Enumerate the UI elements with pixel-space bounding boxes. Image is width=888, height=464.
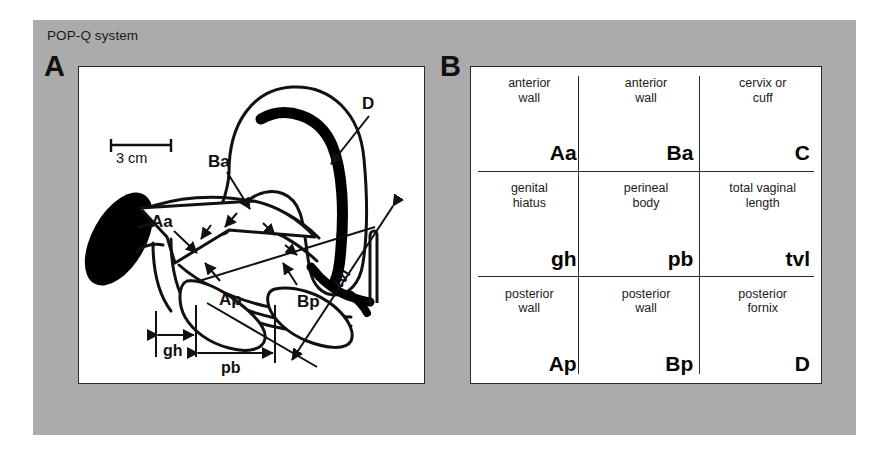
- grid-cell-ba[interactable]: anterior wall Ba: [588, 67, 705, 172]
- cell-description: anterior wall: [482, 76, 577, 106]
- leader-bp: [283, 263, 297, 285]
- figure-root: POP-Q system A B: [0, 0, 888, 464]
- cell-description: cervix or cuff: [715, 76, 810, 106]
- pelvic-anatomy-svg: 3 cm D Ba Aa: [79, 67, 423, 382]
- dimension-pb-label: pb: [221, 359, 241, 376]
- cell-code: pb: [599, 248, 694, 271]
- cell-description: perineal body: [599, 181, 694, 211]
- grid-cell-pb[interactable]: perineal body pb: [588, 172, 705, 277]
- cell-code: C: [715, 142, 810, 165]
- cell-description: anterior wall: [599, 76, 694, 106]
- cell-code: tvl: [715, 248, 810, 271]
- label-ap: Ap: [219, 290, 242, 309]
- grid-vrule-1: [578, 76, 579, 374]
- grid-vrule-2: [699, 76, 700, 374]
- panel-a-letter: A: [44, 52, 65, 81]
- cell-code: D: [715, 353, 810, 376]
- grid-cell-aa[interactable]: anterior wall Aa: [471, 67, 588, 172]
- grid-hrule-1: [478, 171, 814, 172]
- label-bp: Bp: [297, 292, 320, 311]
- cell-description: genital hiatus: [482, 181, 577, 211]
- label-aa: Aa: [151, 212, 173, 231]
- label-ba: Ba: [208, 152, 230, 171]
- cell-code: Ba: [599, 142, 694, 165]
- grid-row: genital hiatus gh perineal body pb total…: [471, 172, 821, 277]
- grid-cell-gh[interactable]: genital hiatus gh: [471, 172, 588, 277]
- figure-title: POP-Q system: [47, 28, 138, 43]
- grid-cell-bp[interactable]: posterior wall Bp: [588, 278, 705, 383]
- label-d: D: [362, 94, 374, 113]
- cell-description: posterior fornix: [715, 287, 810, 317]
- grid-row: anterior wall Aa anterior wall Ba cervix…: [471, 67, 821, 172]
- cell-description: posterior wall: [482, 287, 577, 317]
- cell-description: total vaginal length: [715, 181, 810, 211]
- scale-bar-label: 3 cm: [116, 150, 147, 166]
- panel-b-grid: anterior wall Aa anterior wall Ba cervix…: [470, 66, 822, 384]
- cell-description: posterior wall: [599, 287, 694, 317]
- grid-cell-c[interactable]: cervix or cuff C: [704, 67, 821, 172]
- panel-a-diagram: 3 cm D Ba Aa: [78, 66, 425, 384]
- cell-code: Ap: [482, 353, 577, 376]
- cell-code: Aa: [482, 142, 577, 165]
- cell-code: Bp: [599, 353, 694, 376]
- panel-b-letter: B: [440, 52, 461, 81]
- grid-cell-ap[interactable]: posterior wall Ap: [471, 278, 588, 383]
- dimension-gh-label: gh: [163, 342, 183, 359]
- grid-row: posterior wall Ap posterior wall Bp post…: [471, 278, 821, 383]
- pubic-symphysis-shape: [79, 181, 167, 296]
- grid-cell-d[interactable]: posterior fornix D: [704, 278, 821, 383]
- grid-hrule-2: [478, 276, 814, 277]
- cell-code: gh: [482, 248, 577, 271]
- grid-cell-tvl[interactable]: total vaginal length tvl: [704, 172, 821, 277]
